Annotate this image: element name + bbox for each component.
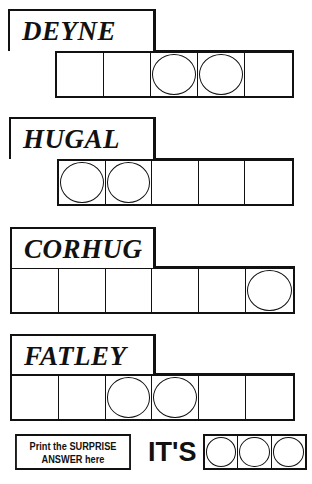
letter-cell[interactable] [245, 161, 292, 204]
surprise-letter-cell[interactable] [272, 436, 305, 468]
scrambled-word-box: FATLEY [10, 334, 156, 374]
circle-marker-icon [273, 437, 304, 467]
circle-marker-icon [107, 162, 151, 203]
letter-cell[interactable] [199, 161, 246, 204]
letter-cell[interactable] [59, 269, 106, 312]
letter-cell-circled[interactable] [106, 376, 153, 419]
letter-cell[interactable] [104, 53, 151, 96]
answer-grid [10, 266, 295, 314]
instruction-line-2: ANSWER here [17, 453, 129, 466]
letter-cell-circled[interactable] [59, 161, 106, 204]
letter-cell-circled[interactable] [106, 161, 153, 204]
answer-grid [10, 373, 295, 421]
scrambled-word: HUGAL [23, 124, 120, 154]
circle-marker-icon [247, 270, 292, 311]
scrambled-word: FATLEY [24, 341, 127, 371]
letter-cell[interactable] [246, 376, 293, 419]
scrambled-word: DEYNE [22, 16, 116, 46]
answer-grid [57, 158, 294, 206]
letter-cell[interactable] [199, 269, 246, 312]
scrambled-word-box: DEYNE [8, 9, 156, 51]
letter-cell[interactable] [12, 376, 59, 419]
letter-cell[interactable] [152, 161, 199, 204]
letter-cell[interactable] [199, 376, 246, 419]
letter-cell[interactable] [12, 269, 59, 312]
answer-prefix: IT'S [148, 436, 196, 468]
circle-marker-icon [239, 437, 269, 467]
surprise-letter-cell[interactable] [238, 436, 271, 468]
circle-marker-icon [60, 162, 104, 203]
surprise-answer-cells[interactable] [203, 434, 307, 470]
letter-cell[interactable] [245, 53, 292, 96]
letter-cell-circled[interactable] [246, 269, 293, 312]
circle-marker-icon [107, 377, 151, 418]
surprise-answer-instruction: Print the SURPRISE ANSWER here [15, 434, 131, 470]
scrambled-word-box: HUGAL [9, 117, 156, 159]
scrambled-word-box: CORHUG [10, 227, 156, 268]
letter-cell[interactable] [59, 376, 106, 419]
letter-cell[interactable] [152, 269, 199, 312]
letter-cell-circled[interactable] [151, 53, 198, 96]
letter-cell[interactable] [57, 53, 104, 96]
surprise-letter-cell[interactable] [205, 436, 238, 468]
instruction-line-1: Print the SURPRISE [17, 440, 129, 453]
letter-cell-circled[interactable] [198, 53, 245, 96]
circle-marker-icon [199, 54, 243, 95]
circle-marker-icon [206, 437, 236, 467]
answer-grid [55, 50, 294, 98]
letter-cell-circled[interactable] [152, 376, 199, 419]
circle-marker-icon [153, 377, 197, 418]
letter-cell[interactable] [106, 269, 153, 312]
circle-marker-icon [152, 54, 196, 95]
scrambled-word: CORHUG [24, 234, 143, 264]
